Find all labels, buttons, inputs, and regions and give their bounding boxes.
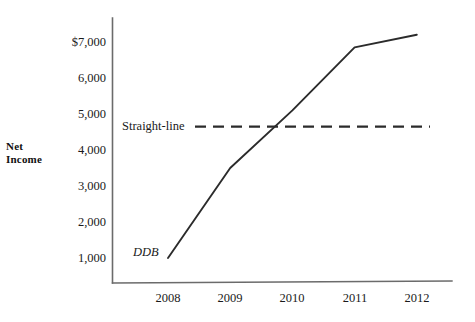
series-label-ddb: DDB	[133, 246, 159, 259]
y-tick-label-3000: 3,000	[42, 180, 106, 193]
y-tick-label-4000: 4,000	[42, 144, 106, 157]
x-tick-label-2011: 2011	[329, 292, 381, 305]
y-axis-title-line2: Income	[6, 153, 42, 165]
y-tick-label-2000: 2,000	[42, 216, 106, 229]
series-line-ddb	[168, 35, 417, 258]
x-tick-label-2012: 2012	[391, 292, 443, 305]
y-axis-title-line1: Net	[6, 140, 23, 152]
x-tick-label-2009: 2009	[204, 292, 256, 305]
x-axis-line	[113, 281, 453, 283]
y-tick-label-1000: 1,000	[42, 252, 106, 265]
y-tick-label-7000: $7,000	[42, 36, 106, 49]
y-tick-label-6000: 6,000	[42, 72, 106, 85]
x-tick-label-2008: 2008	[142, 292, 194, 305]
chart-page: NetIncome $7,000 6,000 5,000 4,000 3,000…	[0, 0, 475, 322]
y-tick-label-5000: 5,000	[42, 108, 106, 121]
series-label-straight-line: Straight-line	[122, 120, 185, 133]
x-tick-label-2010: 2010	[266, 292, 318, 305]
